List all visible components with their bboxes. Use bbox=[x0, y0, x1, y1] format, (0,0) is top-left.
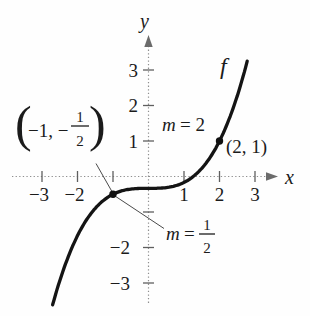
slope1-frac-numerator: 1 bbox=[203, 217, 211, 233]
slope2-value: = 2 bbox=[180, 114, 205, 135]
y-axis: 321−2−3 y bbox=[110, 10, 154, 304]
graph-canvas: −3−2123 x 321−2−3 y f ( −1, − 1 2 ) (2, … bbox=[0, 0, 310, 316]
leader-line-point-label bbox=[96, 164, 113, 193]
y-axis-label: y bbox=[138, 10, 149, 33]
x-tick-label: 1 bbox=[179, 184, 189, 205]
point1-label: ( −1, − 1 2 ) bbox=[15, 96, 106, 152]
x-axis: −3−2123 x bbox=[12, 166, 294, 205]
x-tick-label: 3 bbox=[250, 184, 260, 205]
slope2-label: m = 2 bbox=[162, 114, 205, 135]
x-tick-label: −3 bbox=[29, 184, 49, 205]
y-tick-label: 1 bbox=[129, 131, 139, 152]
y-tick-label: −3 bbox=[110, 273, 130, 294]
slope2-var: m bbox=[162, 114, 176, 135]
slope1-var: m bbox=[166, 223, 180, 244]
curve-label: f bbox=[220, 53, 230, 79]
y-axis-arrow-icon bbox=[144, 35, 152, 47]
point-marker bbox=[109, 191, 116, 198]
y-tick-label: −2 bbox=[110, 237, 130, 258]
y-tick-label: 3 bbox=[129, 60, 139, 81]
x-tick-label: 2 bbox=[215, 184, 225, 205]
slope1-label: m = 1 2 bbox=[166, 217, 215, 256]
point-marker bbox=[216, 137, 223, 144]
point1-frac-numerator: 1 bbox=[76, 109, 84, 125]
x-tick-label: −2 bbox=[64, 184, 84, 205]
slope1-frac-denominator: 2 bbox=[203, 240, 211, 256]
point1-close-paren: ) bbox=[89, 96, 106, 152]
y-tick-label: 2 bbox=[129, 95, 139, 116]
point2-label: (2, 1) bbox=[226, 136, 267, 158]
leader-line-slope-label bbox=[115, 196, 164, 229]
slope1-equals: = bbox=[184, 223, 195, 244]
point1-body: −1, − bbox=[28, 120, 68, 141]
x-axis-arrow-icon bbox=[266, 172, 278, 180]
point1-frac-denominator: 2 bbox=[76, 133, 84, 149]
figure: −3−2123 x 321−2−3 y f ( −1, − 1 2 ) (2, … bbox=[0, 0, 310, 316]
x-axis-label: x bbox=[284, 166, 294, 188]
